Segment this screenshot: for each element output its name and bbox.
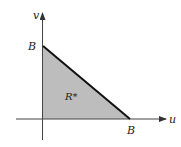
- v-intercept-label: B: [27, 40, 36, 53]
- u-axis-label: u: [169, 113, 176, 126]
- v-axis-label: v: [33, 9, 40, 22]
- u-intercept-label: B: [126, 124, 135, 137]
- region-diagram: v u B B R*: [0, 0, 181, 147]
- region-label: R*: [64, 91, 78, 102]
